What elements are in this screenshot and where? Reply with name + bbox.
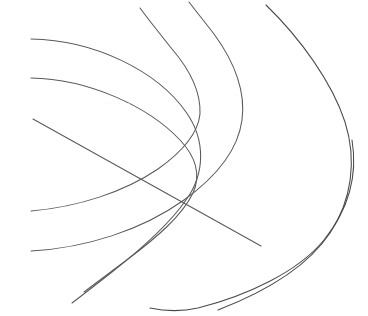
outermost-lower-arc — [31, 2, 243, 251]
outermost-upper-arc — [31, 39, 201, 303]
curve-group — [31, 2, 354, 311]
figure-svg — [0, 0, 368, 316]
faint-pencil-smudge: · · · — [108, 98, 132, 108]
right-outer-sweep-arc — [218, 5, 351, 310]
drawing-canvas: · · ·· — [0, 0, 368, 316]
straight-diagonal-line — [33, 119, 261, 246]
line-group — [33, 119, 261, 246]
faint-pencil-dot: · — [48, 208, 53, 218]
inner-lower-arc — [31, 8, 200, 211]
inner-upper-arc — [31, 78, 197, 292]
right-inner-sweep-arc — [150, 140, 354, 311]
